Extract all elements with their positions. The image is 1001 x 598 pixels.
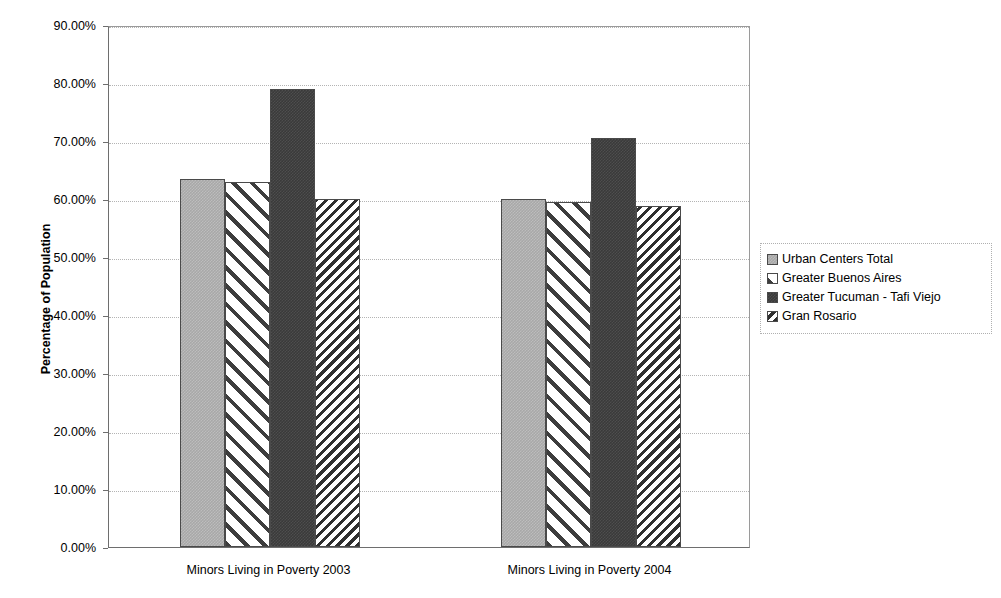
legend-swatch-icon [767, 254, 778, 265]
legend-item-label: Greater Tucuman - Tafi Viejo [782, 291, 941, 304]
legend-item-label: Greater Buenos Aires [782, 272, 902, 285]
bar [501, 199, 546, 547]
legend-swatch-icon [767, 273, 778, 284]
y-axis-tick-label: 30.00% [54, 368, 96, 380]
y-axis-tick-mark [103, 548, 108, 549]
legend-item: Urban Centers Total [767, 250, 987, 269]
bar [591, 138, 636, 547]
legend-item: Gran Rosario [767, 307, 987, 326]
y-axis-tick-label: 40.00% [54, 310, 96, 322]
y-axis-tick-label: 60.00% [54, 194, 96, 206]
legend-item-label: Gran Rosario [782, 310, 856, 323]
y-axis-tick-label: 90.00% [54, 20, 96, 32]
y-axis-tick-label: 50.00% [54, 252, 96, 264]
bar [180, 179, 225, 547]
legend-swatch-icon [767, 292, 778, 303]
legend-item-label: Urban Centers Total [782, 253, 893, 266]
bar [225, 182, 270, 547]
x-axis-category-label: Minors Living in Poverty 2003 [187, 563, 351, 577]
bar [546, 202, 591, 547]
x-axis-category-label: Minors Living in Poverty 2004 [508, 563, 672, 577]
y-axis-tick-label: 80.00% [54, 78, 96, 90]
bar-chart: Percentage of Population 0.00%10.00%20.0… [0, 0, 1001, 598]
y-axis-tick-label: 20.00% [54, 426, 96, 438]
bars-layer [109, 27, 749, 547]
bar [315, 199, 360, 547]
legend-item: Greater Buenos Aires [767, 269, 987, 288]
y-axis-tick-label: 10.00% [54, 484, 96, 496]
legend: Urban Centers TotalGreater Buenos AiresG… [760, 243, 992, 334]
bar [270, 89, 315, 547]
legend-swatch-icon [767, 311, 778, 322]
y-axis-tick-label: 70.00% [54, 136, 96, 148]
y-axis-tick-label: 0.00% [61, 542, 96, 554]
plot-area [108, 26, 750, 548]
legend-item: Greater Tucuman - Tafi Viejo [767, 288, 987, 307]
y-axis: 0.00%10.00%20.00%30.00%40.00%50.00%60.00… [0, 0, 108, 598]
bar [636, 206, 681, 547]
